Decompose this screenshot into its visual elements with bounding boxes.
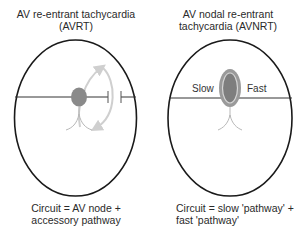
avnrt-caption: Circuit = slow 'pathway' + fast 'pathway…	[176, 202, 304, 226]
avrt-heart-outline	[15, 40, 137, 196]
avrt-caption-line1: Circuit = AV node +	[0, 202, 152, 214]
fast-pathway-label: Fast	[247, 83, 266, 94]
avnrt-reentry-circuit	[223, 73, 238, 103]
avrt-caption: Circuit = AV node + accessory pathway	[0, 202, 152, 226]
avnrt-right-bundle-branch	[230, 115, 242, 130]
avrt-circuit-arrow-return	[96, 68, 113, 128]
avnrt-caption-line2: fast 'pathway'	[176, 214, 304, 226]
slow-pathway-label: Slow	[192, 83, 214, 94]
avnrt-left-bundle-branch	[218, 115, 230, 130]
avrt-av-node	[71, 88, 87, 107]
avrt-caption-line2: accessory pathway	[0, 214, 152, 226]
avrt-left-bundle-branch	[66, 114, 79, 130]
avnrt-heart-diagram	[168, 40, 292, 196]
avrt-heart-diagram	[15, 40, 137, 196]
avrt-right-bundle-branch	[79, 114, 92, 130]
avnrt-caption-line1: Circuit = slow 'pathway' +	[176, 202, 304, 214]
avnrt-heart-outline	[168, 40, 292, 196]
